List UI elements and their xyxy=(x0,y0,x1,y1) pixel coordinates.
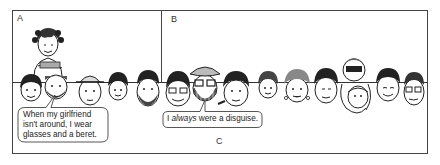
face-8 xyxy=(218,71,249,106)
face-14 xyxy=(404,72,424,105)
bubble-a-line-2: isn't around, I wear xyxy=(23,120,109,130)
face-3 xyxy=(76,76,104,105)
speech-bubble-b-text: I always were a disguise. xyxy=(167,114,265,124)
bubble-a-line-1: When my girlfriend xyxy=(23,110,109,120)
face-12-hugged xyxy=(341,58,371,113)
bubble-b-suffix: were a disguise. xyxy=(197,114,258,123)
region-label-b: B xyxy=(171,14,177,24)
face-6 xyxy=(166,71,190,106)
face-9 xyxy=(258,71,278,98)
venn-style-face-diagram: A B C When my girlfriend isn't around, I… xyxy=(0,0,440,165)
speech-bubble-a-text: When my girlfriend isn't around, I wear … xyxy=(23,110,109,140)
bubble-b-emphasis: always xyxy=(172,114,197,123)
face-10 xyxy=(284,69,310,102)
region-label-a: A xyxy=(17,13,23,23)
face-5 xyxy=(137,70,159,106)
bubble-a-line-3: glasses and a beret. xyxy=(23,130,109,140)
region-label-c: C xyxy=(216,136,223,146)
face-4 xyxy=(108,72,128,100)
face-2 xyxy=(45,75,67,99)
face-woman-top xyxy=(32,28,64,76)
face-1 xyxy=(20,74,42,101)
face-13 xyxy=(376,68,400,101)
face-11 xyxy=(314,68,338,103)
